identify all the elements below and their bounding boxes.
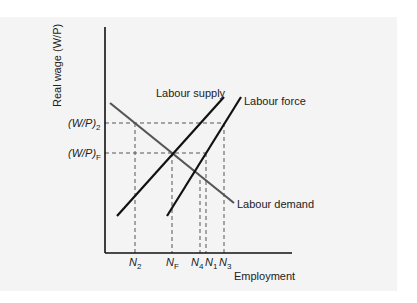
y-axis-title: Real wage (W/P) [51,24,63,107]
labour-supply-label: Labour supply [156,87,226,99]
wp2-label: (W/P)2 [68,117,101,132]
x-axis-title: Employment [234,270,295,282]
n4-label: N4 [191,256,204,271]
nf-label: NF [166,256,179,271]
guide-lines [105,123,224,253]
labour-force-curve [167,97,241,216]
wpf-label: (W/P)F [68,147,101,162]
n3-label: N3 [219,256,232,271]
labour-market-diagram: Real wage (W/P) Labour supply Labour for… [0,0,417,303]
n1-label: N1 [205,256,218,271]
labour-supply-curve [117,97,224,216]
labour-demand-label: Labour demand [237,198,314,210]
n2-label: N2 [129,256,142,271]
labour-force-label: Labour force [244,95,306,107]
